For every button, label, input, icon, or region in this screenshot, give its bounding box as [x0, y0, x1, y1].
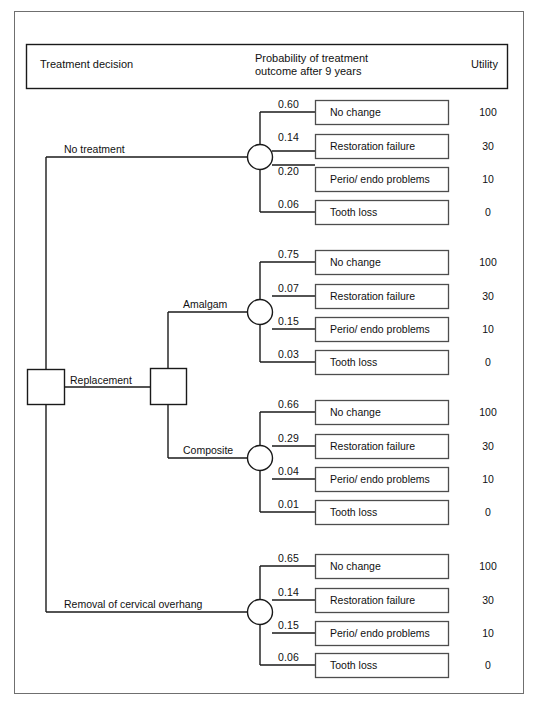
utility-g3-2: 30	[470, 440, 506, 452]
utility-g3-4: 0	[470, 506, 506, 518]
root-decision-node	[28, 370, 65, 405]
probability-g4-4: 0.06	[278, 651, 299, 663]
utility-g2-1: 100	[470, 256, 506, 268]
chance-node-no-treatment	[248, 145, 273, 170]
outcome-label-g2-4: Tooth loss	[330, 356, 377, 368]
header-col-treatment-decision: Treatment decision	[40, 58, 133, 71]
figure-canvas: Treatment decision Probability of treatm…	[0, 0, 538, 712]
probability-g3-3: 0.04	[278, 465, 299, 477]
probability-g1-2: 0.14	[278, 131, 299, 143]
utility-g4-2: 30	[470, 594, 506, 606]
chance-node-removal	[248, 600, 273, 625]
branch-label-composite: Composite	[183, 444, 233, 456]
branch-label-no-treatment: No treatment	[64, 143, 125, 155]
utility-g2-2: 30	[470, 290, 506, 302]
outcome-label-g2-3: Perio/ endo problems	[330, 323, 430, 335]
branch-label-replacement: Replacement	[70, 374, 132, 386]
outcome-label-g3-2: Restoration failure	[330, 440, 415, 452]
probability-g2-3: 0.15	[278, 315, 299, 327]
probability-g4-1: 0.65	[278, 552, 299, 564]
outcome-label-g1-3: Perio/ endo problems	[330, 173, 430, 185]
outcome-label-g2-1: No change	[330, 256, 381, 268]
probability-g1-1: 0.60	[278, 98, 299, 110]
branch-label-amalgam: Amalgam	[183, 298, 227, 310]
probability-g2-4: 0.03	[278, 348, 299, 360]
utility-g1-1: 100	[470, 106, 506, 118]
probability-g3-1: 0.66	[278, 398, 299, 410]
probability-g1-4: 0.06	[278, 198, 299, 210]
chance-node-amalgam	[248, 300, 273, 325]
utility-g2-4: 0	[470, 356, 506, 368]
probability-g4-3: 0.15	[278, 619, 299, 631]
probability-g2-1: 0.75	[278, 248, 299, 260]
utility-g4-4: 0	[470, 659, 506, 671]
branch-label-removal-of-cervical-overhang: Removal of cervical overhang	[64, 598, 202, 610]
probability-g2-2: 0.07	[278, 282, 299, 294]
outcome-label-g3-4: Tooth loss	[330, 506, 377, 518]
probability-g3-2: 0.29	[278, 432, 299, 444]
header-col-probability-line1: Probability of treatment	[255, 52, 368, 65]
utility-g1-3: 10	[470, 173, 506, 185]
outcome-label-g3-1: No change	[330, 406, 381, 418]
utility-g2-3: 10	[470, 323, 506, 335]
utility-g1-4: 0	[470, 206, 506, 218]
utility-g4-1: 100	[470, 560, 506, 572]
outcome-label-g3-3: Perio/ endo problems	[330, 473, 430, 485]
probability-g1-3: 0.20	[278, 165, 299, 177]
header-col-probability-line2: outcome after 9 years	[255, 65, 361, 78]
utility-g3-3: 10	[470, 473, 506, 485]
probability-g4-2: 0.14	[278, 586, 299, 598]
outcome-label-g1-4: Tooth loss	[330, 206, 377, 218]
outcome-label-g4-3: Perio/ endo problems	[330, 627, 430, 639]
utility-g3-1: 100	[470, 406, 506, 418]
utility-g4-3: 10	[470, 627, 506, 639]
outcome-label-g2-2: Restoration failure	[330, 290, 415, 302]
chance-node-composite	[248, 446, 273, 471]
utility-g1-2: 30	[470, 140, 506, 152]
outcome-label-g4-4: Tooth loss	[330, 659, 377, 671]
outcome-label-g1-1: No change	[330, 106, 381, 118]
probability-g3-4: 0.01	[278, 498, 299, 510]
outcome-label-g1-2: Restoration failure	[330, 140, 415, 152]
header-col-utility: Utility	[471, 58, 498, 71]
replacement-decision-node	[151, 369, 187, 405]
outcome-label-g4-1: No change	[330, 560, 381, 572]
outcome-label-g4-2: Restoration failure	[330, 594, 415, 606]
